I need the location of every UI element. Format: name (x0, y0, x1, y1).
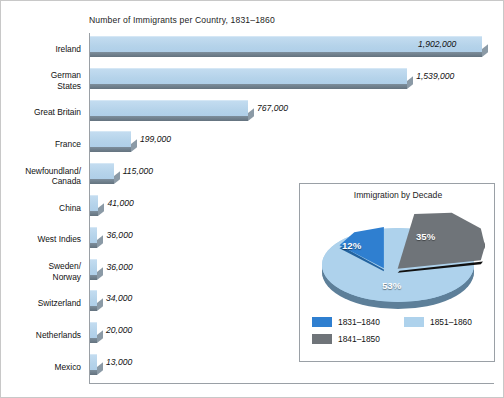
bar-category-label: German States (0, 70, 81, 91)
bar-3d-cap (482, 44, 488, 57)
bar-3d-cap (114, 171, 120, 184)
legend-row: 1841–1850 (312, 334, 488, 351)
bar-category-label: Ireland (0, 43, 81, 53)
bar-value-label: 41,000 (107, 198, 133, 208)
pie-value-1841-1850: 35% (416, 231, 435, 242)
legend-item[interactable]: 1851–1860 (404, 317, 472, 327)
bar-row: Great Britain767,000 (1, 97, 504, 128)
bar-category-label: Switzerland (0, 298, 81, 308)
bar-fill (90, 322, 97, 339)
bar (90, 195, 98, 217)
bar (90, 227, 97, 249)
legend-swatch (312, 317, 332, 327)
bar-3d-cap (131, 140, 137, 153)
bar-3d-cap (98, 203, 104, 216)
bar-3d-cap (248, 108, 254, 121)
legend-swatch (312, 334, 332, 344)
legend-item[interactable]: 1841–1850 (312, 334, 380, 344)
bar-value-label: 36,000 (106, 262, 132, 272)
chart-title: Number of Immigrants per Country, 1831–1… (89, 15, 275, 25)
bar-value-label: 20,000 (106, 325, 132, 335)
bar-category-label: West Indies (0, 234, 81, 244)
pie-value-1831-1840: 12% (342, 240, 361, 251)
pie-chart-title: Immigration by Decade (300, 190, 496, 200)
bar-category-label: China (0, 202, 81, 212)
bar-3d-base (90, 84, 407, 89)
bar-3d-base (90, 52, 482, 57)
bar-category-label: Newfoundland/ Canada (0, 165, 81, 186)
legend-label: 1851–1860 (430, 317, 472, 327)
chart-figure: Number of Immigrants per Country, 1831–1… (0, 0, 504, 398)
bar (90, 131, 131, 153)
bar-3d-base (90, 147, 131, 152)
bar-3d-base (90, 306, 97, 311)
pie-value-1851-1860: 53% (382, 280, 401, 291)
legend-label: 1841–1850 (338, 334, 380, 344)
legend-swatch (404, 317, 424, 327)
bar-3d-cap (97, 362, 103, 375)
bar-fill (90, 354, 97, 371)
bar-3d-cap (97, 267, 103, 280)
bar-3d-cap (97, 235, 103, 248)
bar-value-label: 115,000 (123, 166, 153, 176)
bar-value-label: 1,539,000 (416, 71, 454, 81)
bar-value-label: 1,902,000 (418, 39, 456, 49)
pie-inset-panel: Immigration by Decade 12% 35% 53% 1831–1… (299, 183, 495, 362)
bar-category-label: Great Britain (0, 107, 81, 117)
bar (90, 322, 97, 344)
bar-3d-base (90, 370, 97, 375)
bar-fill (90, 290, 97, 307)
bar-row: Ireland1,902,000 (1, 33, 504, 64)
bar-row: France199,000 (1, 128, 504, 159)
bar-value-label: 767,000 (257, 103, 288, 113)
legend-item[interactable]: 1831–1840 (312, 317, 380, 327)
bar-3d-base (90, 116, 248, 121)
bar-category-label: Mexico (0, 361, 81, 371)
bar (90, 100, 248, 122)
bar-value-label: 34,000 (106, 293, 132, 303)
bar-category-label: Netherlands (0, 329, 81, 339)
bar-fill (90, 68, 407, 85)
pie-legend: 1831–18401851–18601841–1850 (312, 317, 488, 351)
bar-category-label: Sweden/ Norway (0, 261, 81, 282)
bar-value-label: 36,000 (106, 230, 132, 240)
bar-3d-cap (97, 299, 103, 312)
bar-fill (90, 100, 248, 117)
bar-fill (90, 131, 131, 148)
legend-row: 1831–18401851–1860 (312, 317, 488, 334)
bar (90, 163, 114, 185)
bar-category-label: France (0, 139, 81, 149)
legend-label: 1831–1840 (338, 317, 380, 327)
bar-value-label: 13,000 (106, 357, 132, 367)
bar-3d-base (90, 179, 114, 184)
bar (90, 68, 407, 90)
bar-value-label: 199,000 (140, 134, 171, 144)
bar-3d-base (90, 338, 97, 343)
bar (90, 354, 97, 376)
bar-row: German States1,539,000 (1, 65, 504, 96)
bar (90, 259, 97, 281)
x-axis-line (89, 383, 494, 384)
bar-fill (90, 163, 114, 180)
pie-chart: 12% 35% 53% (308, 202, 488, 310)
bar-3d-cap (407, 76, 413, 89)
bar-3d-cap (97, 330, 103, 343)
bar (90, 290, 97, 312)
